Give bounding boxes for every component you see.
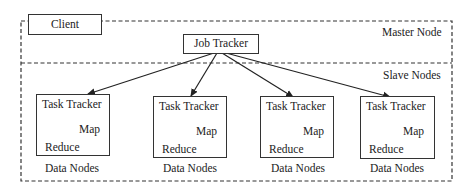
data-nodes-caption-3: Data Nodes (271, 162, 325, 174)
map-label: Map (303, 125, 324, 137)
task-tracker-box-4: Task Tracker Map Reduce (360, 96, 435, 159)
client-box: Client (28, 14, 102, 35)
edge-job-to-task-4 (226, 53, 390, 97)
task-tracker-title: Task Tracker (266, 100, 326, 112)
task-tracker-title: Task Tracker (159, 100, 219, 112)
edge-job-to-task-1 (88, 53, 214, 94)
task-tracker-box-1: Task Tracker Map Reduce (36, 94, 110, 156)
data-nodes-caption-2: Data Nodes (163, 162, 217, 174)
master-node-label: Master Node (382, 26, 442, 38)
job-tracker-label: Job Tracker (184, 37, 258, 49)
task-tracker-title: Task Tracker (366, 100, 426, 112)
edge-job-to-task-3 (222, 53, 293, 97)
client-label: Client (29, 18, 101, 30)
job-tracker-box: Job Tracker (183, 34, 259, 54)
reduce-label: Reduce (162, 143, 196, 155)
task-tracker-title: Task Tracker (42, 98, 102, 110)
task-tracker-box-3: Task Tracker Map Reduce (260, 96, 334, 158)
reduce-label: Reduce (45, 141, 79, 153)
slave-nodes-label: Slave Nodes (383, 69, 441, 81)
data-nodes-caption-4: Data Nodes (370, 162, 424, 174)
data-nodes-caption-1: Data Nodes (45, 162, 99, 174)
map-label: Map (196, 125, 217, 137)
reduce-label: Reduce (269, 143, 303, 155)
reduce-label: Reduce (369, 143, 403, 155)
map-label: Map (403, 125, 424, 137)
task-tracker-box-2: Task Tracker Map Reduce (153, 96, 227, 158)
map-label: Map (79, 123, 100, 135)
